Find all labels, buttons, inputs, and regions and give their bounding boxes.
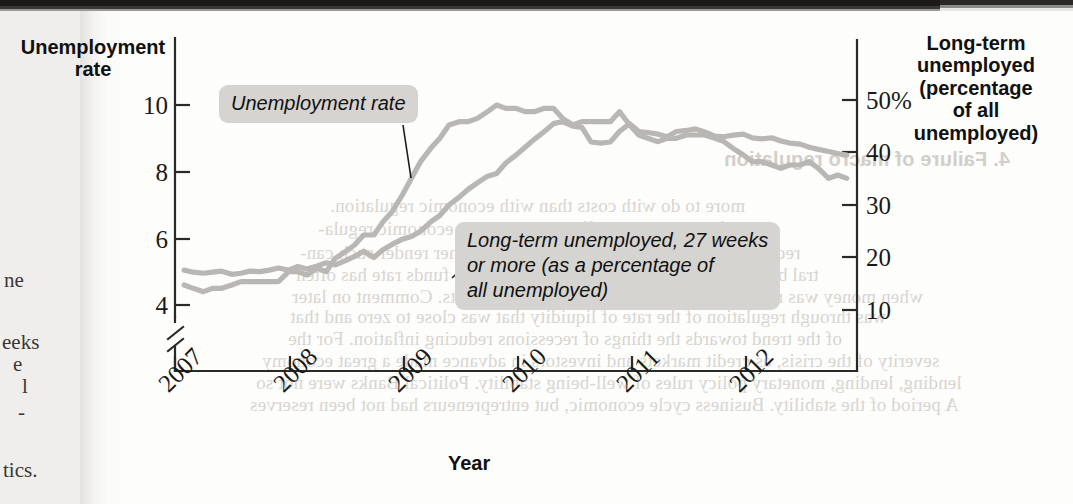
annotation-long-term-unemployed: Long-term unemployed, 27 weeks or more (…: [455, 222, 780, 310]
x-axis-title: Year: [448, 452, 490, 474]
left-tick-label: 6: [130, 226, 168, 254]
left-axis-ticks: [175, 105, 190, 305]
chart-figure: Unemployment rate Long-term unemployed (…: [0, 0, 1073, 504]
annotation-unemployment-rate: Unemployment rate: [219, 85, 418, 123]
left-tick-label: 8: [130, 159, 168, 187]
right-tick-label: 40: [866, 139, 891, 167]
left-axis-title: Unemployment rate: [8, 36, 178, 81]
right-axis-ticks: [842, 100, 857, 310]
right-tick-label: 30: [866, 192, 891, 220]
leader-line-unemployment: [403, 125, 411, 178]
right-tick-label: 20: [866, 244, 891, 272]
left-tick-label: 4: [130, 292, 168, 320]
right-tick-label: 10: [866, 297, 891, 325]
right-tick-label: 50%: [866, 87, 912, 115]
left-tick-label: 10: [130, 92, 168, 120]
